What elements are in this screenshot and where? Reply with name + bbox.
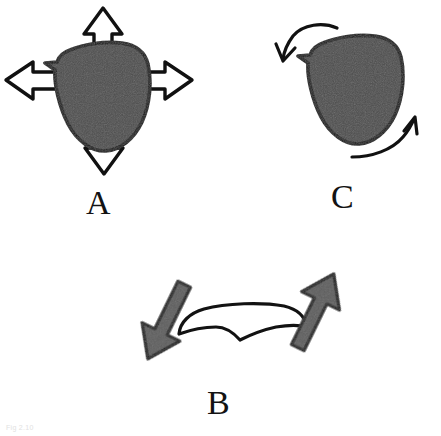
figure-canvas: A — [0, 0, 441, 436]
panel-label-c: C — [331, 180, 354, 214]
panel-label-a: A — [86, 186, 111, 220]
panel-a: A — [0, 0, 192, 174]
panel-label-b: B — [207, 386, 230, 420]
figure-corner-caption: Fig 2.10 — [6, 424, 34, 431]
panel-b — [129, 265, 353, 368]
panel-c — [276, 25, 417, 157]
blob-shape-a — [45, 42, 150, 151]
flattened-shape-b — [179, 304, 307, 340]
blob-shape-c — [298, 35, 403, 144]
figure-root: A A B C Fig — [0, 0, 441, 436]
